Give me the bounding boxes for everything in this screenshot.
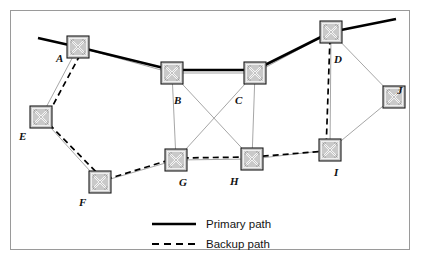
node-label-g: G <box>179 177 187 188</box>
legend-swatch-layer <box>152 224 196 244</box>
link-c-h <box>252 73 255 159</box>
link-b-h <box>172 73 252 159</box>
network-diagram-figure: ABCDEFGHIJ Primary path Backup path <box>0 0 437 265</box>
network-switch-icon-c <box>244 62 266 84</box>
legend-label-backup: Backup path <box>206 238 270 250</box>
node-label-h: H <box>230 176 239 187</box>
node-label-e: E <box>19 131 26 142</box>
network-switch-icon-h <box>241 148 263 170</box>
network-switch-icon-b <box>161 62 183 84</box>
network-switch-icon-i <box>319 139 341 161</box>
network-switch-icon-a <box>67 36 89 58</box>
network-switch-icon-f <box>89 171 111 193</box>
network-switch-icon-g <box>165 149 187 171</box>
node-label-f: F <box>79 197 86 208</box>
node-label-d: D <box>334 54 342 65</box>
node-label-c: C <box>235 95 242 106</box>
node-label-b: B <box>174 95 181 106</box>
node-label-j: J <box>397 85 403 96</box>
network-switch-icon-d <box>320 21 342 43</box>
link-c-g <box>176 73 255 160</box>
network-switch-icon-e <box>30 106 52 128</box>
link-b-g <box>172 73 176 160</box>
legend-label-primary: Primary path <box>206 218 271 230</box>
node-label-a: A <box>56 53 63 64</box>
node-label-i: I <box>334 167 338 178</box>
